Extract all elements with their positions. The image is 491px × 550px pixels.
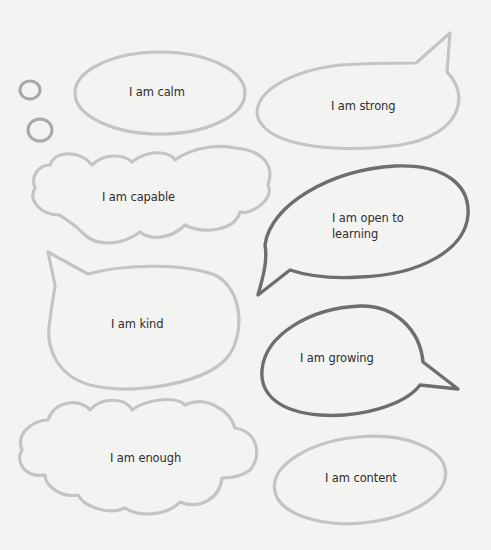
affirmation-enough: I am enough	[110, 450, 181, 466]
thought-dot-large-icon	[28, 119, 52, 141]
affirmation-strong: I am strong	[331, 98, 395, 114]
affirmation-bubbles-sheet: I am calm I am strong I am capable I am …	[0, 0, 491, 550]
bubble-outlines	[0, 0, 491, 550]
affirmation-calm: I am calm	[129, 84, 185, 100]
thought-dot-small-icon	[20, 81, 40, 99]
affirmation-capable: I am capable	[102, 189, 175, 205]
affirmation-open-to-learning: I am open to learning	[332, 210, 422, 242]
affirmation-kind: I am kind	[111, 316, 164, 332]
bubble-strong-outline	[257, 33, 459, 148]
affirmation-content: I am content	[325, 470, 397, 486]
affirmation-growing: I am growing	[300, 350, 374, 366]
